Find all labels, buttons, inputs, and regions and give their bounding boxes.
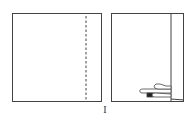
hand-icon: [140, 84, 171, 97]
paper-square: [13, 14, 102, 102]
paper-square-folded: [112, 14, 184, 102]
step-label: I: [100, 104, 110, 115]
panel-right: [112, 14, 185, 102]
folding-diagram: [0, 0, 196, 126]
panel-left: [13, 14, 102, 102]
folded-flap-bottom: [171, 99, 184, 100]
